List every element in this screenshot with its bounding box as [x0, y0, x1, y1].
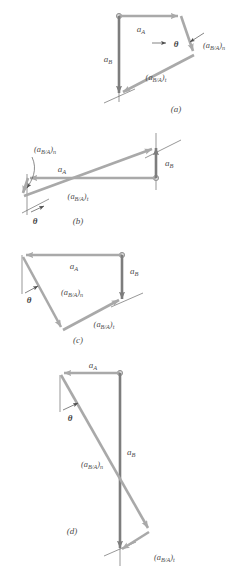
panel-caption-a: (a) — [171, 104, 182, 114]
vector-diagram-canvas: aA aB (aB/A)n (aB/A)t θ (a) — [0, 0, 247, 580]
label-a-BA-n-panel-d: (aB/A)n — [81, 460, 103, 470]
label-a-BA-n-panel-a: (aB/A)n — [203, 41, 225, 51]
label-theta-panel-d: θ — [68, 413, 73, 423]
theta-pointer-c — [25, 286, 38, 293]
vector-a-BA-n-panel-a — [181, 16, 193, 51]
reference-tick-left-b — [22, 199, 49, 213]
label-a-BA-n-panel-c: (aB/A)n — [61, 288, 83, 298]
label-theta-panel-a: θ — [174, 39, 179, 49]
label-a-A-panel-a: aA — [137, 24, 146, 35]
figure-container: aA aB (aB/A)n (aB/A)t θ (a) — [0, 0, 247, 580]
label-a-B-panel-d: aB — [127, 447, 136, 458]
label-a-B-panel-a: aB — [104, 54, 113, 65]
vector-a-BA-t-panel-a — [123, 55, 194, 92]
label-a-BA-t-panel-c: (aB/A)t — [94, 320, 115, 330]
vector-a-BA-t-panel-b — [24, 149, 152, 196]
theta-pointer-b — [31, 206, 44, 212]
leader-line-a-BA-n-panel-b — [27, 157, 35, 188]
panel-d: aA aB (aB/A)n (aB/A)t θ (d) — [60, 360, 175, 566]
label-theta-panel-c: θ — [27, 295, 32, 305]
label-a-A-panel-c: aA — [70, 261, 79, 272]
vector-a-BA-t-panel-d — [122, 532, 149, 549]
vector-a-BA-n-panel-c — [23, 257, 61, 327]
panel-caption-d: (d) — [67, 526, 78, 536]
label-a-BA-t-panel-b: (aB/A)t — [68, 192, 89, 202]
label-a-A-panel-b: aA — [58, 164, 67, 175]
label-a-A-panel-d: aA — [89, 360, 98, 371]
reference-tick-c — [111, 293, 143, 307]
label-theta-panel-b: θ — [33, 216, 38, 226]
panel-a: aA aB (aB/A)n (aB/A)t θ (a) — [104, 13, 225, 114]
panel-c: aA aB (aB/A)n (aB/A)t θ (c) — [22, 252, 143, 345]
label-a-B-panel-b: aB — [165, 158, 174, 169]
label-a-BA-t-panel-d: (aB/A)t — [154, 553, 175, 563]
theta-pointer-right-a — [190, 33, 204, 42]
panel-caption-c: (c) — [73, 335, 83, 345]
label-a-B-panel-c: aB — [130, 266, 139, 277]
panel-b: (aB/A)n aA aB (aB/A)t θ (b) — [22, 133, 181, 226]
panel-caption-b: (b) — [73, 216, 84, 226]
theta-pointer-d — [63, 403, 78, 410]
label-a-BA-n-panel-b: (aB/A)n — [34, 145, 56, 155]
